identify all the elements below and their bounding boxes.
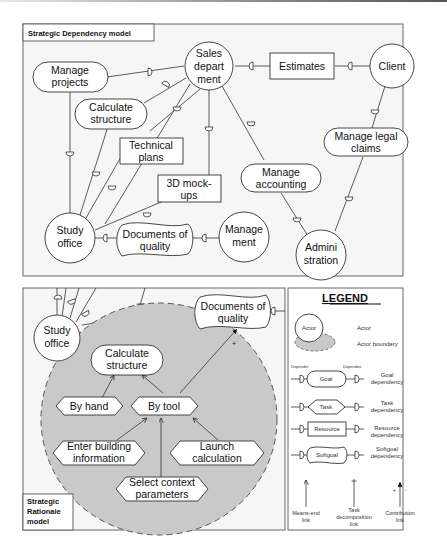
sr-model-title-2: Rationale bbox=[27, 507, 61, 516]
svg-text:Means-end: Means-end bbox=[292, 510, 320, 516]
svg-text:Resource: Resource bbox=[314, 426, 340, 432]
svg-text:ups: ups bbox=[181, 189, 198, 201]
sd-model-title: Strategic Dependency model bbox=[28, 29, 131, 38]
svg-text:dependency: dependency bbox=[371, 432, 404, 438]
svg-text:Select context: Select context bbox=[129, 476, 195, 488]
svg-text:Task: Task bbox=[348, 507, 360, 513]
svg-text:Study: Study bbox=[57, 224, 85, 236]
svg-text:link: link bbox=[302, 517, 311, 523]
sr-goal-calculate-structure[interactable]: Calculate structure bbox=[91, 345, 163, 375]
svg-text:information: information bbox=[73, 452, 125, 464]
svg-text:Study: Study bbox=[44, 324, 72, 336]
svg-text:structure: structure bbox=[91, 113, 132, 125]
resource-technical-plans[interactable]: Technical plans bbox=[120, 138, 183, 164]
task-launch-calculation[interactable]: Launch calculation bbox=[170, 440, 264, 465]
svg-text:3D mock-: 3D mock- bbox=[167, 177, 212, 189]
goal-calculate-structure[interactable]: Calculate structure bbox=[75, 99, 147, 129]
svg-text:Calculate: Calculate bbox=[105, 347, 149, 359]
svg-text:Documents of: Documents of bbox=[123, 228, 188, 240]
svg-text:Actor: Actor bbox=[357, 325, 371, 331]
task-enter-building-information[interactable]: Enter building information bbox=[53, 440, 145, 465]
svg-text:Softgoal: Softgoal bbox=[316, 452, 338, 458]
svg-text:calculation: calculation bbox=[192, 452, 242, 464]
svg-text:claims: claims bbox=[351, 142, 381, 154]
svg-text:Estimates: Estimates bbox=[279, 60, 325, 72]
sr-model-title-3: model bbox=[27, 517, 49, 526]
svg-text:Calculate: Calculate bbox=[89, 101, 133, 113]
actor-client[interactable]: Client bbox=[370, 44, 414, 88]
svg-text:By hand: By hand bbox=[70, 400, 109, 412]
svg-text:projects: projects bbox=[52, 76, 89, 88]
sr-model-panel: Study office + Documents of quality Calc… bbox=[23, 288, 285, 535]
svg-text:Manage: Manage bbox=[262, 166, 300, 178]
svg-text:Dependee: Dependee bbox=[343, 364, 362, 369]
actor-management[interactable]: Manage ment bbox=[219, 212, 269, 262]
task-by-tool[interactable]: By tool bbox=[131, 397, 198, 415]
svg-text:structure: structure bbox=[107, 359, 148, 371]
svg-text:ment: ment bbox=[232, 236, 255, 248]
svg-text:office: office bbox=[58, 237, 83, 249]
sr-actor-study-office[interactable]: Study office bbox=[34, 315, 80, 361]
goal-manage-projects[interactable]: Manage projects bbox=[33, 62, 108, 92]
svg-text:dependency: dependency bbox=[371, 453, 404, 459]
svg-text:Manage: Manage bbox=[51, 64, 89, 76]
goal-manage-accounting[interactable]: Manage accounting bbox=[241, 164, 321, 192]
svg-text:Technical: Technical bbox=[129, 139, 173, 151]
svg-text:Softgoal: Softgoal bbox=[376, 446, 398, 452]
goal-manage-legal-claims[interactable]: Manage legal claims bbox=[324, 128, 408, 156]
actor-administration[interactable]: Admini stration bbox=[296, 230, 346, 280]
svg-text:Contribution: Contribution bbox=[385, 510, 415, 516]
sr-model-title-1: Strategic bbox=[27, 497, 59, 506]
svg-text:Launch: Launch bbox=[200, 440, 235, 452]
task-select-context-parameters[interactable]: Select context parameters bbox=[116, 476, 208, 501]
sd-model-panel: Strategic Dependency model bbox=[23, 24, 414, 280]
svg-text:ment: ment bbox=[197, 73, 220, 85]
svg-text:depart: depart bbox=[194, 60, 224, 72]
svg-text:parameters: parameters bbox=[135, 488, 188, 500]
svg-text:Task: Task bbox=[320, 404, 333, 410]
svg-text:Depender: Depender bbox=[291, 364, 309, 369]
svg-text:office: office bbox=[45, 337, 70, 349]
svg-text:Goal: Goal bbox=[320, 376, 333, 382]
svg-text:Admini: Admini bbox=[305, 241, 337, 253]
svg-text:decomposition: decomposition bbox=[336, 514, 371, 520]
svg-text:Actor boundary: Actor boundary bbox=[357, 341, 398, 347]
svg-text:dependency: dependency bbox=[371, 379, 404, 385]
svg-text:By tool: By tool bbox=[148, 400, 180, 412]
svg-text:plans: plans bbox=[138, 151, 163, 163]
svg-text:Enter building: Enter building bbox=[67, 440, 131, 452]
svg-text:dependency: dependency bbox=[371, 407, 404, 413]
svg-text:Actor: Actor bbox=[302, 325, 316, 331]
svg-text:+: + bbox=[232, 340, 236, 347]
svg-text:link: link bbox=[350, 521, 359, 527]
svg-text:stration: stration bbox=[304, 254, 339, 266]
svg-text:quality: quality bbox=[140, 240, 171, 252]
svg-text:Resource: Resource bbox=[374, 425, 400, 431]
svg-text:Goal: Goal bbox=[381, 372, 394, 378]
legend-title: LEGEND bbox=[322, 292, 368, 304]
svg-text:link: link bbox=[396, 517, 405, 523]
svg-text:accounting: accounting bbox=[256, 178, 307, 190]
svg-text:Documents of: Documents of bbox=[201, 300, 266, 312]
legend-panel: LEGEND Actor Actor Actor boundary Depend… bbox=[288, 288, 415, 530]
svg-text:Manage legal: Manage legal bbox=[334, 130, 397, 142]
svg-text:Task: Task bbox=[381, 400, 394, 406]
svg-text:+: + bbox=[393, 487, 396, 493]
resource-estimates[interactable]: Estimates bbox=[270, 53, 334, 79]
actor-study-office[interactable]: Study office bbox=[45, 213, 95, 263]
istar-diagram: Strategic Dependency model bbox=[0, 0, 447, 551]
svg-text:Sales: Sales bbox=[196, 47, 222, 59]
task-by-hand[interactable]: By hand bbox=[56, 397, 123, 415]
softgoal-documents-of-quality[interactable]: Documents of quality bbox=[117, 223, 193, 256]
svg-text:-: - bbox=[405, 487, 407, 493]
svg-text:Client: Client bbox=[379, 60, 406, 72]
actor-sales-department[interactable]: Sales depart ment bbox=[185, 42, 233, 90]
svg-text:Manage: Manage bbox=[225, 223, 263, 235]
resource-3d-mockups[interactable]: 3D mock- ups bbox=[158, 175, 221, 202]
sr-softgoal-documents-of-quality[interactable]: Documents of quality bbox=[195, 295, 271, 329]
svg-text:quality: quality bbox=[218, 312, 249, 324]
